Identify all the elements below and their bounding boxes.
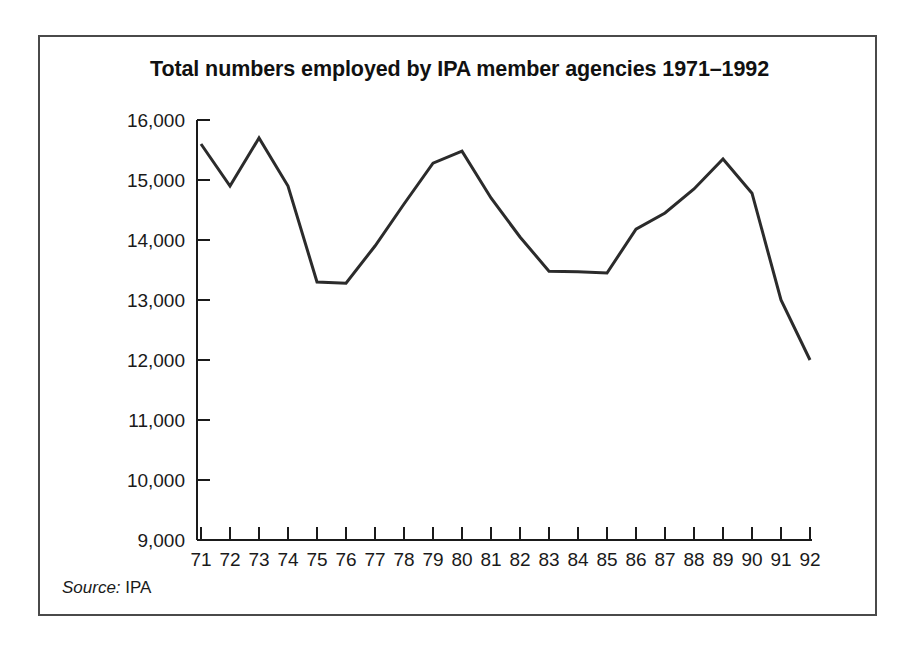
x-axis-tick-label: 77 [364,549,385,570]
y-axis-tick-label: 12,000 [127,350,185,371]
y-axis: 9,00010,00011,00012,00013,00014,00015,00… [127,110,210,551]
x-axis-tick-label: 92 [799,549,820,570]
x-axis-tick-label: 90 [741,549,762,570]
source-label: Source: [62,578,121,597]
x-axis-tick-label: 87 [654,549,675,570]
data-line [201,138,810,360]
x-axis-tick-label: 91 [770,549,791,570]
data-series [201,138,810,360]
x-axis-tick-label: 71 [190,549,211,570]
x-axis: 7172737475767778798081828384858687888990… [190,527,820,570]
source-note: Source: IPA [62,578,151,598]
y-axis-tick-label: 11,000 [128,410,185,431]
x-axis-tick-label: 83 [538,549,559,570]
x-axis-tick-label: 89 [712,549,733,570]
x-axis-tick-label: 86 [625,549,646,570]
x-axis-tick-label: 72 [219,549,240,570]
x-axis-tick-label: 78 [393,549,414,570]
figure-root: Total numbers employed by IPA member age… [0,0,914,651]
x-axis-tick-label: 88 [683,549,704,570]
x-axis-tick-label: 73 [248,549,269,570]
line-chart-plot: 9,00010,00011,00012,00013,00014,00015,00… [40,37,879,618]
y-axis-tick-label: 10,000 [127,470,185,491]
x-axis-tick-label: 81 [480,549,501,570]
x-axis-tick-label: 84 [567,549,589,570]
y-axis-tick-label: 14,000 [127,230,185,251]
y-axis-tick-label: 16,000 [127,110,185,131]
y-axis-tick-label: 9,000 [137,530,185,551]
x-axis-tick-label: 75 [306,549,327,570]
x-axis-tick-label: 79 [422,549,443,570]
x-axis-tick-label: 76 [335,549,356,570]
y-axis-tick-label: 13,000 [127,290,185,311]
x-axis-tick-label: 74 [277,549,299,570]
figure-frame: Total numbers employed by IPA member age… [38,35,877,616]
x-axis-tick-label: 80 [451,549,472,570]
source-value: IPA [121,578,152,597]
x-axis-tick-label: 85 [596,549,617,570]
x-axis-tick-label: 82 [509,549,530,570]
y-axis-tick-label: 15,000 [127,170,185,191]
